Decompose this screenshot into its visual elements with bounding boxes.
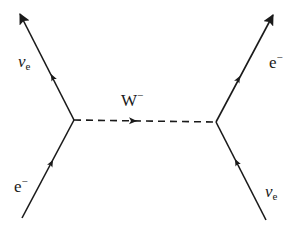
label-main: e [269, 53, 277, 72]
mid-arrow-icon [129, 117, 137, 124]
label-main: e [14, 177, 22, 196]
w-boson-propagator-line [74, 117, 216, 124]
electron-incoming-left-line [22, 120, 74, 218]
mid-arrow-icon [232, 158, 241, 167]
mid-arrow-icon [48, 73, 57, 82]
label-electron-top-right: e− [269, 51, 283, 72]
label-nu-e-bottom-right: νe [265, 182, 278, 202]
mid-arrow-icon [47, 159, 56, 168]
nu-e-incoming-right-line [216, 122, 266, 220]
label-w-boson: W− [121, 89, 143, 110]
label-superscript: − [277, 51, 283, 63]
label-nu-e-top-left: νe [18, 52, 31, 72]
label-superscript: − [137, 89, 143, 101]
feynman-diagram: νe e− W− e− νe [0, 0, 300, 249]
electron-outgoing-right-line [216, 15, 273, 122]
label-main: W [121, 91, 138, 110]
label-electron-bottom-left: e− [14, 175, 28, 196]
label-superscript: − [22, 175, 28, 187]
label-subscript: e [26, 60, 31, 72]
label-subscript: e [273, 190, 278, 202]
